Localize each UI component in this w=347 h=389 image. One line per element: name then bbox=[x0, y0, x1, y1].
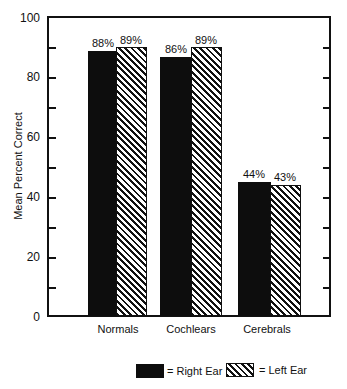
y-tick-mark bbox=[49, 227, 56, 229]
y-tick-mark bbox=[49, 107, 56, 109]
bar-cochlears-left-ear bbox=[191, 47, 222, 316]
y-tick-mark bbox=[49, 197, 56, 199]
y-tick-mark-right bbox=[323, 257, 330, 259]
y-tick-mark-right bbox=[323, 227, 330, 229]
bar-normals-right-ear bbox=[88, 51, 117, 316]
value-label-cochlears-right: 86% bbox=[159, 44, 193, 55]
y-tick-mark bbox=[49, 257, 56, 259]
y-tick-mark bbox=[49, 137, 56, 139]
y-tick-mark-right bbox=[323, 137, 330, 139]
value-label-cerebrals-left: 43% bbox=[268, 172, 302, 183]
y-tick-mark-right bbox=[323, 287, 330, 289]
bar-chart: Mean Percent Correct 0 20 40 60 80 100 8… bbox=[0, 0, 347, 389]
x-label-cerebrals: Cerebrals bbox=[232, 323, 302, 335]
y-tick-mark-right bbox=[323, 197, 330, 199]
y-tick-label-80: 80 bbox=[14, 71, 40, 83]
y-tick-mark bbox=[49, 47, 56, 49]
bar-normals-left-ear bbox=[116, 47, 147, 316]
y-tick-mark bbox=[49, 167, 56, 169]
y-tick-mark-right bbox=[323, 47, 330, 49]
y-tick-label-0: 0 bbox=[14, 311, 40, 323]
x-label-cochlears: Cochlears bbox=[156, 323, 226, 335]
y-axis-label: Mean Percent Correct bbox=[12, 96, 24, 236]
y-tick-mark bbox=[49, 77, 56, 79]
legend-swatch-right-ear bbox=[136, 364, 164, 378]
x-label-normals: Normals bbox=[83, 323, 153, 335]
y-tick-label-40: 40 bbox=[14, 191, 40, 203]
bar-cerebrals-right-ear bbox=[238, 182, 271, 316]
legend-swatch-left-ear bbox=[226, 363, 254, 377]
legend-label-left-ear: = Left Ear bbox=[259, 364, 307, 376]
y-tick-label-20: 20 bbox=[14, 251, 40, 263]
y-tick-label-100: 100 bbox=[14, 12, 40, 24]
bar-cochlears-right-ear bbox=[160, 57, 192, 316]
value-label-cochlears-left: 89% bbox=[189, 35, 223, 46]
y-tick-mark-right bbox=[323, 167, 330, 169]
y-tick-mark-right bbox=[323, 77, 330, 79]
value-label-normals-left: 89% bbox=[114, 35, 148, 46]
bar-cerebrals-left-ear bbox=[270, 185, 301, 316]
y-tick-mark-right bbox=[323, 107, 330, 109]
value-label-cerebrals-right: 44% bbox=[237, 169, 271, 180]
y-tick-mark bbox=[49, 287, 56, 289]
y-tick-label-60: 60 bbox=[14, 131, 40, 143]
legend-label-right-ear: = Right Ear bbox=[167, 365, 222, 377]
